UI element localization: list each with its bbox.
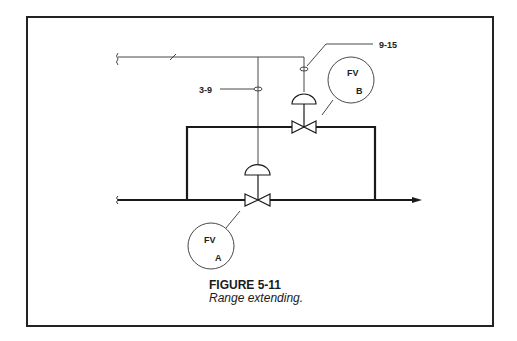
actuator-dome-icon xyxy=(245,165,270,175)
bubble-leader xyxy=(322,100,333,115)
bubble-a-tag: FV xyxy=(204,235,216,245)
signal-range-label-a: 3-9 xyxy=(199,85,212,95)
bubble-circle xyxy=(328,57,374,103)
control-valve-b xyxy=(292,94,316,133)
signal-range-label-b: 9-15 xyxy=(379,40,397,50)
bubble-circle xyxy=(188,223,234,269)
flow-arrow-icon xyxy=(412,197,422,203)
bubble-b-tag: FV xyxy=(347,68,359,78)
signal-lines xyxy=(117,44,374,165)
bypass-pipe-right xyxy=(316,127,375,200)
valve-body-left-icon xyxy=(292,121,304,133)
bubble-b-letter: B xyxy=(356,86,363,96)
valve-body-right-icon xyxy=(258,194,270,206)
valve-body-right-icon xyxy=(304,121,316,133)
control-valve-a xyxy=(245,165,270,206)
valve-body-left-icon xyxy=(245,194,258,206)
instrument-bubble-a: FV A xyxy=(188,211,240,269)
process-piping xyxy=(117,127,413,204)
bubble-a-letter: A xyxy=(215,253,222,263)
bypass-pipe-left xyxy=(187,127,292,200)
instrument-bubble-b: FV B xyxy=(322,57,374,115)
figure-title: Range extending. xyxy=(209,292,303,305)
pipe-break-icon xyxy=(117,196,119,204)
figure-caption: FIGURE 5-11 Range extending. xyxy=(209,279,303,305)
actuator-dome-icon xyxy=(292,94,316,104)
signal-break-icon xyxy=(117,53,119,65)
bubble-leader xyxy=(226,211,240,228)
